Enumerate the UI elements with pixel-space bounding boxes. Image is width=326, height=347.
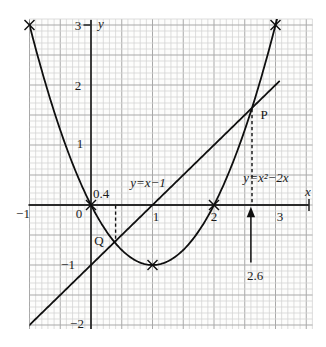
y-tick-2: 2 [75,79,82,92]
graph-figure: y x 3 2 1 0 −1 −2 −1 1 2 3 0.4 2.6 P Q y… [0,0,326,347]
y-tick-0: 0 [76,207,83,220]
parabola-equation-label: y=x²−2x [243,171,288,184]
y-tick-1: 1 [77,137,84,150]
line-equation-label: y=x−1 [130,176,166,189]
y-tick-neg1: −1 [61,258,75,271]
x-tick-3: 3 [277,210,284,223]
p-x-value-label: 2.6 [247,269,263,282]
y-tick-3: 3 [75,19,82,32]
point-p-label: P [260,108,267,121]
x-tick-1: 1 [153,210,160,223]
x-tick-neg1: −1 [16,207,30,220]
x-axis-label: x [305,185,311,198]
y-axis-label: y [98,17,104,30]
y-tick-neg2: −2 [70,317,84,330]
x-tick-2: 2 [211,210,218,223]
point-q-label: Q [94,234,103,247]
q-x-value-label: 0.4 [93,187,109,200]
